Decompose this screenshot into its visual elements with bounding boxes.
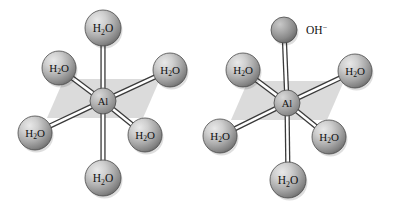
- ligand-sphere-axial-bottom: H2O: [85, 160, 123, 199]
- ligand-sphere-axial-top: H2O: [85, 10, 123, 49]
- ligand-label-tail: O: [61, 62, 69, 74]
- ligand-sphere-equatorial-upper-left: H2O: [226, 53, 262, 90]
- ligand-sphere-equatorial-lower-left: H2O: [203, 119, 239, 156]
- sphere-body: [271, 17, 297, 43]
- central-atom-al: Al: [274, 90, 300, 116]
- central-atom-al: Al: [90, 88, 116, 114]
- ligand-label-tail: O: [105, 172, 113, 184]
- molecules-svg: H2OH2OH2OAlH2OH2OH2OOH−H2OH2OAlH2OH2OH2O: [0, 0, 395, 206]
- ligand-sphere-equatorial-lower-right: H2O: [128, 118, 164, 155]
- molecule-diagram-canvas: H2OH2OH2OAlH2OH2OH2OOH−H2OH2OAlH2OH2OH2O: [0, 0, 395, 206]
- molecule-pentaaquahydroxoaluminium: OH−H2OH2OAlH2OH2OH2O: [203, 17, 374, 201]
- ligand-label-tail: O: [147, 129, 155, 141]
- bond-axial-top: [284, 40, 286, 92]
- ligand-label-tail: O: [222, 130, 230, 142]
- ligand-sphere-equatorial-lower-right: H2O: [312, 120, 348, 157]
- ligand-label-tail: O: [37, 127, 45, 139]
- central-atom-label: Al: [282, 98, 293, 109]
- ligand-label-external: OH−: [306, 23, 328, 37]
- ligand-label-tail: O: [290, 174, 298, 186]
- ligand-label-tail: O: [172, 64, 180, 76]
- central-atom-label: Al: [98, 96, 109, 107]
- ligand-sphere-equatorial-upper-right: H2O: [153, 53, 189, 90]
- ligand-sphere-axial-top: OH−: [271, 17, 328, 46]
- ligand-sphere-equatorial-upper-left: H2O: [42, 51, 78, 88]
- molecule-hexaaquaaluminium: H2OH2OH2OAlH2OH2OH2O: [18, 10, 189, 199]
- ligand-label-tail: O: [105, 22, 113, 34]
- ligand-label-tail: O: [245, 64, 253, 76]
- charge-superscript: −: [323, 23, 328, 32]
- ligand-label-tail: O: [357, 65, 365, 77]
- bond-core: [287, 114, 288, 165]
- ligand-sphere-equatorial-upper-right: H2O: [338, 54, 374, 91]
- bond-axial-bottom: [287, 114, 288, 165]
- ligand-sphere-equatorial-lower-left: H2O: [18, 116, 54, 153]
- ligand-label-tail: O: [331, 131, 339, 143]
- ligand-sphere-axial-bottom: H2O: [270, 162, 308, 201]
